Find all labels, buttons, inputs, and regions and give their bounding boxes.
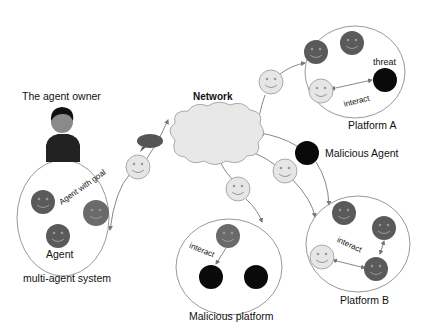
threat-label: threat bbox=[373, 58, 396, 67]
network-cloud bbox=[170, 102, 264, 164]
agent-left-1 bbox=[31, 190, 55, 214]
platform-a-label: Platform A bbox=[348, 120, 396, 131]
malicious-platform-agent-1 bbox=[199, 265, 223, 289]
agent-owner-label: The agent owner bbox=[22, 91, 101, 102]
agent-moving-left bbox=[126, 155, 150, 179]
malicious-platform-label: Malicious platform bbox=[189, 311, 274, 322]
platform-b-benign-agent bbox=[310, 245, 334, 269]
thought-bubble-icon bbox=[137, 134, 163, 152]
agent-moving-center bbox=[226, 177, 250, 201]
platform-a-threat-agent bbox=[373, 68, 397, 92]
platform-b-agent-2 bbox=[372, 216, 396, 240]
malicious-agent-icon bbox=[295, 141, 319, 165]
platform-a-agent-1 bbox=[304, 40, 328, 64]
malicious-platform-visitor bbox=[216, 224, 240, 248]
malicious-platform-agent-2 bbox=[244, 265, 268, 289]
agent-moving-right bbox=[273, 159, 297, 183]
platform-a-benign-agent bbox=[309, 79, 333, 103]
agent-with-goal bbox=[83, 200, 109, 226]
network-label: Network bbox=[193, 92, 232, 102]
platform-b-agent-1 bbox=[332, 201, 356, 225]
platform-a-agent-2 bbox=[340, 31, 364, 55]
agent-label: Agent bbox=[46, 249, 73, 260]
platform-b-agent-3 bbox=[364, 257, 388, 281]
platform-b-label: Platform B bbox=[340, 295, 389, 306]
diagram-canvas bbox=[0, 0, 423, 335]
multi-agent-system-label: multi-agent system bbox=[23, 273, 111, 284]
agent-left-3 bbox=[46, 224, 70, 248]
agent-moving-top bbox=[259, 70, 283, 94]
malicious-agent-label: Malicious Agent bbox=[325, 148, 399, 159]
agent-owner-icon bbox=[46, 107, 80, 162]
